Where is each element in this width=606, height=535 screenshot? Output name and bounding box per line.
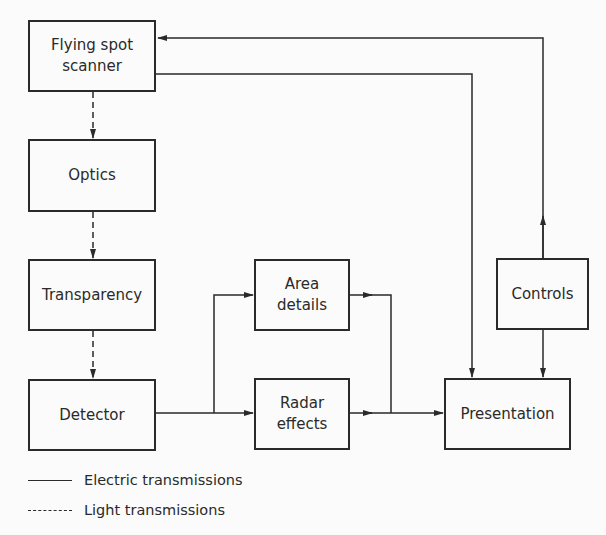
legend-light: Light transmissions [28, 502, 225, 518]
edge-to-area [214, 295, 253, 413]
node-presentation: Presentation [444, 378, 571, 450]
legend-light-label: Light transmissions [84, 502, 225, 518]
node-optics: Optics [28, 139, 156, 212]
node-label: Optics [68, 165, 115, 186]
node-flying-spot-scanner: Flying spot scanner [28, 20, 156, 92]
node-label: Transparency [42, 285, 142, 306]
node-label: Radar effects [277, 393, 328, 435]
node-label: Flying spot scanner [51, 35, 133, 77]
edge-area-join [370, 295, 391, 413]
node-radar-effects: Radar effects [254, 378, 350, 450]
node-controls: Controls [496, 258, 589, 330]
legend-electric: Electric transmissions [28, 472, 243, 488]
node-label: Controls [511, 284, 573, 305]
node-label: Presentation [460, 404, 554, 425]
node-label: Detector [59, 405, 124, 426]
solid-line-sample [28, 480, 72, 481]
node-label: Area details [277, 274, 327, 316]
node-area-details: Area details [254, 259, 350, 331]
legend-electric-label: Electric transmissions [84, 472, 243, 488]
node-detector: Detector [28, 379, 156, 451]
edge-controls-scanner [158, 38, 543, 258]
dashed-line-sample [28, 510, 72, 511]
node-transparency: Transparency [28, 259, 156, 331]
edge-scanner-presentation [156, 74, 472, 377]
